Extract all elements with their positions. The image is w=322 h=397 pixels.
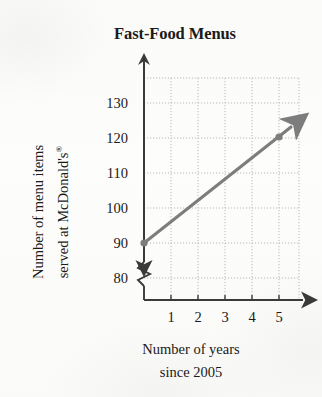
y-axis-break-icon [138, 262, 150, 286]
x-axis-label-line-2: since 2005 [96, 361, 286, 384]
x-axis-label-line-1: Number of years [96, 338, 286, 361]
x-tick-label-3: 3 [216, 310, 234, 325]
x-tick-label-4: 4 [243, 310, 261, 325]
grid-horizontal [144, 78, 299, 278]
y-tick-label-100: 100 [88, 201, 128, 216]
y-tick-label-120: 120 [88, 131, 128, 146]
chart-title: Fast-Food Menus [0, 24, 322, 44]
x-axis-label: Number of years since 2005 [96, 338, 286, 384]
y-tick-label-90: 90 [88, 236, 128, 251]
x-tick-label-5: 5 [270, 310, 288, 325]
y-axis-label-line-2: served at McDonald's® [51, 92, 76, 332]
y-axis-label-line-1: Number of menu items [26, 92, 51, 332]
x-tick-label-2: 2 [189, 310, 207, 325]
data-point-0-90 [140, 239, 147, 246]
y-axis-label-line-2-text: served at McDonald's [55, 153, 71, 279]
y-axis-label: Number of menu items served at McDonald'… [26, 92, 78, 332]
grid-vertical [171, 78, 299, 300]
y-tick-label-80: 80 [88, 271, 128, 286]
data-line [144, 127, 291, 243]
y-tick-label-130: 130 [88, 96, 128, 111]
registered-trademark-icon: ® [54, 146, 64, 153]
x-tick-label-1: 1 [162, 310, 180, 325]
data-point-5-120 [275, 133, 282, 140]
chart-figure: Fast-Food Menus Number of menu items ser… [0, 0, 322, 397]
y-tick-label-110: 110 [88, 166, 128, 181]
